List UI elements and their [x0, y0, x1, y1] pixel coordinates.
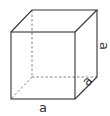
visible-edges	[11, 10, 97, 99]
depth-label: a	[79, 73, 96, 89]
height-label: a	[97, 42, 110, 50]
top-face-edges	[11, 10, 97, 32]
cube-diagram: a a a	[0, 0, 110, 116]
hidden-edge-bottom-diagonal	[11, 77, 32, 99]
width-label: a	[39, 100, 47, 115]
front-face	[11, 32, 75, 99]
